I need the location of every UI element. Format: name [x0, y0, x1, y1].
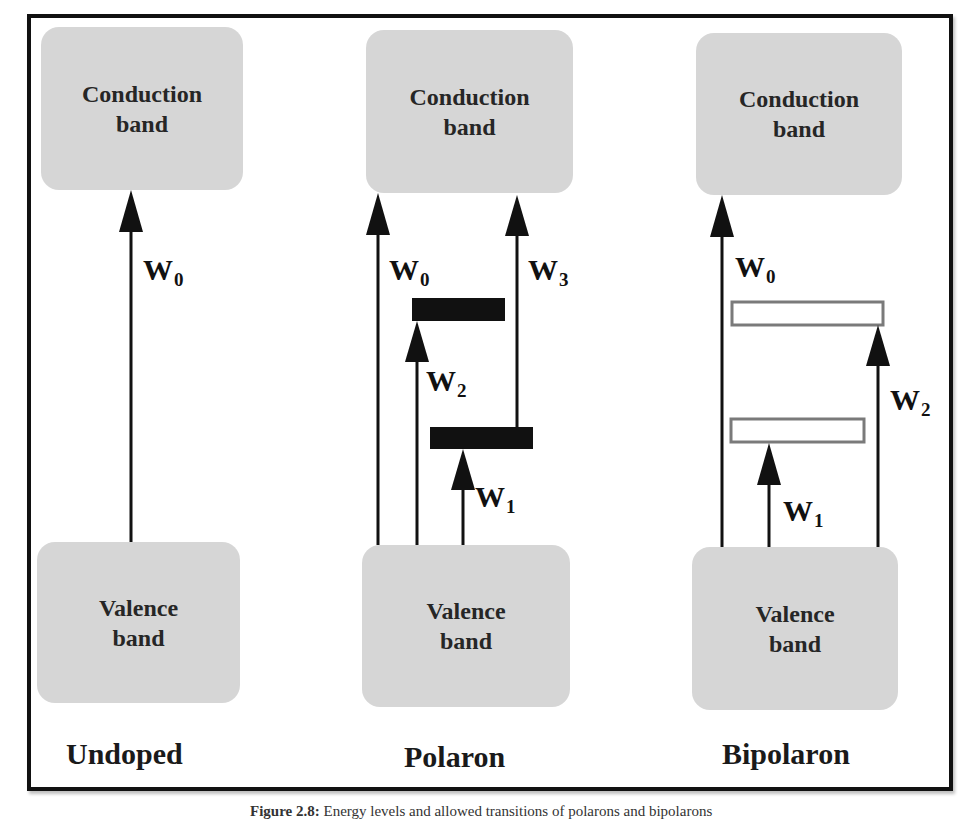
w-subscript: 0 [174, 269, 184, 290]
figure-caption: Figure 2.8: Energy levels and allowed tr… [250, 803, 712, 819]
w-subscript: 1 [814, 510, 824, 531]
polaron-w0-arrow [366, 193, 390, 545]
bipolaron-w0-arrow [710, 195, 734, 547]
w-subscript: 1 [506, 496, 516, 517]
undoped-title: Undoped [66, 737, 183, 771]
lower-polaron-level [430, 427, 533, 449]
polaron-w1-label: W1 [475, 482, 516, 522]
lower-bipolaron-level [731, 419, 864, 442]
bipolaron-w1-arrow [757, 443, 781, 547]
polaron-w0-label: W0 [389, 255, 430, 295]
bipolaron-w2-label: W2 [890, 385, 931, 425]
w-symbol: W [475, 480, 505, 513]
bipolaron-title: Bipolaron [722, 737, 850, 771]
w-symbol: W [528, 253, 558, 286]
bipolaron-w0-label: W0 [735, 252, 776, 292]
w-symbol: W [735, 250, 765, 283]
undoped-w0-arrow [119, 190, 143, 542]
polaron-w2-arrow [405, 321, 429, 545]
w-symbol: W [389, 253, 419, 286]
w-subscript: 2 [457, 380, 467, 401]
w-symbol: W [426, 364, 456, 397]
upper-bipolaron-level [732, 302, 883, 325]
polaron-w3-arrow [505, 195, 529, 427]
polaron-w2-label: W2 [426, 366, 467, 406]
w-subscript: 0 [420, 269, 430, 290]
caption-label: Figure 2.8: [250, 803, 320, 819]
polaron-w3-label: W3 [528, 255, 569, 295]
w-subscript: 3 [559, 269, 569, 290]
w-symbol: W [890, 383, 920, 416]
polaron-w1-arrow [451, 449, 475, 545]
bipolaron-w2-arrow [866, 325, 890, 547]
caption-text: Energy levels and allowed transitions of… [323, 803, 712, 819]
undoped-w0-label: W0 [143, 255, 184, 295]
w-subscript: 0 [766, 266, 776, 287]
bipolaron-w1-label: W1 [783, 496, 824, 536]
w-subscript: 2 [921, 399, 931, 420]
w-symbol: W [783, 494, 813, 527]
w-symbol: W [143, 253, 173, 286]
upper-polaron-level [412, 298, 505, 321]
transition-arrows [0, 0, 975, 819]
polaron-title: Polaron [404, 740, 505, 774]
